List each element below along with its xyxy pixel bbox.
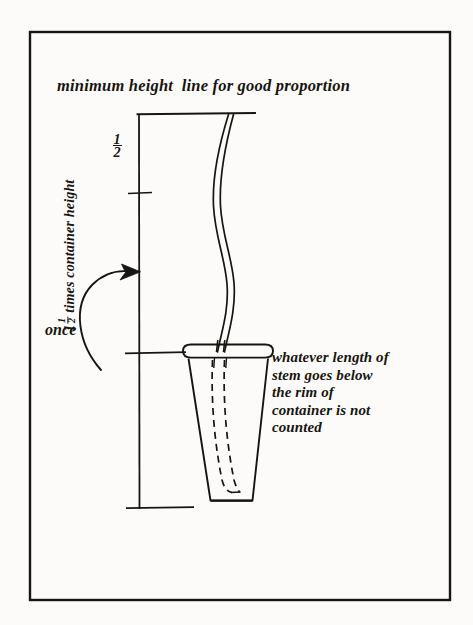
- once-curved-arrow-shaft: [80, 271, 130, 370]
- fraction-denominator: 2: [68, 317, 77, 324]
- stem-below-rim-caption: whatever length of stem goes below the r…: [272, 349, 389, 437]
- dimension-label: 112 times container height: [58, 141, 77, 371]
- hidden-stem-dashed-right: [224, 360, 240, 492]
- rim-level-tick: [125, 352, 186, 353]
- stem-line-left: [213, 115, 228, 353]
- minimum-height-line: [138, 113, 256, 114]
- hidden-stem-dashed-left: [212, 360, 232, 493]
- dimension-axis-line: [139, 114, 140, 509]
- dimension-label-prefix: 1: [61, 325, 77, 332]
- half-mark-label: 12: [112, 133, 122, 159]
- minimum-height-title: minimum height line for good proportion: [57, 77, 350, 95]
- half-mark-fraction: 12: [113, 133, 122, 159]
- stem-line-right: [220, 115, 234, 353]
- container-body: [189, 359, 269, 501]
- half-division-tick: [128, 193, 152, 194]
- half-mark-denominator: 2: [113, 146, 122, 158]
- hidden-stem-dashed-tip: [231, 492, 241, 493]
- dimension-label-suffix: times container height: [61, 180, 77, 317]
- dimension-label-fraction: 12: [58, 317, 77, 324]
- base-level-tick: [126, 507, 194, 508]
- container-rim: [183, 345, 273, 358]
- figure-page: minimum height line for good proportion …: [0, 0, 473, 625]
- figure-frame: [30, 32, 450, 600]
